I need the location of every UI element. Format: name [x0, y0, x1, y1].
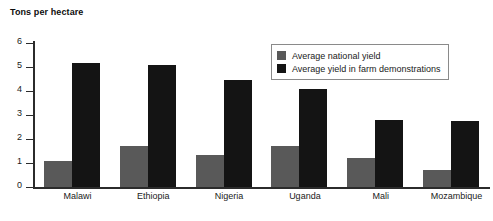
y-axis-tick: 4 — [26, 91, 34, 92]
y-axis-tick: 2 — [26, 139, 34, 140]
legend-swatch-icon — [277, 51, 286, 60]
chart-legend: Average national yield Average yield in … — [271, 44, 449, 80]
x-axis-category-label: Nigeria — [187, 191, 263, 201]
bar-demonstration-yield — [148, 65, 176, 187]
y-axis-tick: 3 — [26, 115, 34, 116]
x-axis-category-label: Malawi — [35, 191, 111, 201]
bar-group: Nigeria — [187, 43, 263, 187]
y-axis-tick-label: 2 — [17, 132, 22, 142]
x-axis-line — [33, 187, 490, 189]
bar-chart: Tons per hectare 6543210 MalawiEthiopiaN… — [0, 0, 493, 221]
bar-pair — [187, 43, 263, 187]
legend-label: Average national yield — [292, 51, 380, 61]
bar-demonstration-yield — [224, 80, 252, 187]
x-axis-category-label: Mali — [338, 191, 414, 201]
y-axis-tick-label: 0 — [17, 180, 22, 190]
bar-pair — [111, 43, 187, 187]
y-axis-tick-label: 1 — [17, 156, 22, 166]
bar-demonstration-yield — [451, 121, 479, 187]
y-axis-tick-label: 5 — [17, 60, 22, 70]
bar-national-yield — [271, 146, 299, 187]
y-axis-tick: 0 — [26, 187, 34, 188]
bar-national-yield — [196, 155, 224, 187]
x-axis-category-label: Uganda — [262, 191, 338, 201]
bar-group: Ethiopia — [111, 43, 187, 187]
legend-swatch-icon — [277, 64, 286, 73]
legend-label: Average yield in farm demonstrations — [292, 64, 440, 74]
y-axis-tick-label: 3 — [17, 108, 22, 118]
bar-national-yield — [423, 170, 451, 187]
x-axis-category-label: Mozambique — [414, 191, 490, 201]
legend-item-demonstrations: Average yield in farm demonstrations — [277, 62, 440, 75]
y-axis-tick: 6 — [26, 43, 34, 44]
bar-group: Malawi — [35, 43, 111, 187]
x-axis-category-label: Ethiopia — [111, 191, 187, 201]
bar-national-yield — [347, 158, 375, 187]
y-axis-tick-label: 4 — [17, 84, 22, 94]
bar-demonstration-yield — [375, 120, 403, 187]
legend-item-national: Average national yield — [277, 49, 440, 62]
bar-national-yield — [120, 146, 148, 187]
bar-demonstration-yield — [299, 89, 327, 187]
y-axis-tick: 5 — [26, 67, 34, 68]
bar-demonstration-yield — [72, 63, 100, 187]
bar-pair — [35, 43, 111, 187]
y-axis-tick-label: 6 — [17, 36, 22, 46]
y-axis-title: Tons per hectare — [10, 7, 83, 17]
y-axis-tick: 1 — [26, 163, 34, 164]
bar-national-yield — [44, 161, 72, 187]
